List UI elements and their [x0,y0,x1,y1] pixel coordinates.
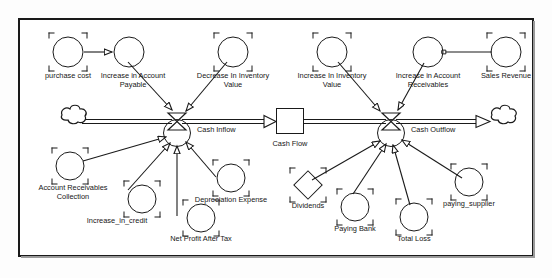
label-increase-in-credit: Increase_in_credit [74,217,160,226]
node-net-profit-after-tax[interactable] [187,204,216,233]
node-purchase-cost[interactable] [53,37,84,68]
label-paying-supplier: paying_supplier [431,200,507,209]
node-increase-in-credit[interactable] [128,185,157,214]
label-paying-bank: Paying Bank [323,225,387,234]
label-increase-in-inventory-value: Increase In Inventory Value [289,72,375,89]
node-depreciation-expense[interactable] [217,164,246,193]
node-account-receivables-collection[interactable] [56,152,85,181]
node-sales-revenue[interactable] [491,37,522,68]
node-cash-flow-stock[interactable] [276,108,304,134]
label-net-profit-after-tax: Net Profit After Tax [156,235,246,244]
label-cash-flow-stock: Cash Flow [255,140,325,149]
label-total-loss: Total Loss [384,235,444,244]
label-sales-revenue: Sales Revenue [471,72,541,81]
label-depreciation-expense: Depreciation Expense [185,196,277,205]
label-cash-inflow: Cash Inflow [197,126,257,135]
label-increase-in-account-payable: Increase in Account Payable [91,72,175,89]
diagram-canvas: purchase cost Increase in Account Payabl… [0,0,552,278]
node-paying-supplier[interactable] [455,168,484,197]
node-cash-outflow[interactable] [377,119,405,147]
label-increase-in-account-receivables: Increase in Account Receivables [384,72,472,89]
node-total-loss[interactable] [400,203,429,232]
label-account-receivables-collection: Account Receivables Collection [25,184,121,201]
node-paying-bank[interactable] [341,193,370,222]
node-cash-inflow[interactable] [163,119,191,147]
label-cash-outflow: Cash Outflow [411,126,473,135]
node-increase-in-account-receivables[interactable] [413,37,444,68]
node-decrease-in-inventory-value[interactable] [218,37,249,68]
node-increase-in-account-payable[interactable] [114,37,145,68]
label-decrease-in-inventory-value: Decrease In Inventory Value [188,72,278,89]
node-increase-in-inventory-value[interactable] [317,37,348,68]
label-dividends: Dividends [278,202,338,211]
